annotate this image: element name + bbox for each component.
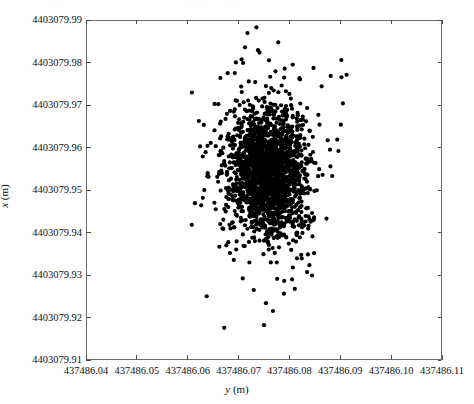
x-axis-tick-top [187, 20, 188, 24]
x-axis-tick-top [340, 20, 341, 24]
x-axis-tick-label: 437486.06 [165, 365, 210, 377]
y-axis-tick [86, 147, 91, 148]
y-axis-tick-right [438, 317, 441, 318]
y-axis-tick-label: 4403079.96 [32, 142, 82, 154]
y-axis-unit: (m) [0, 184, 10, 200]
x-axis-title: y (m) [0, 383, 474, 395]
x-axis-tick-top [289, 20, 290, 24]
y-axis-tick [86, 317, 91, 318]
y-axis-tick-right [438, 232, 441, 233]
y-axis-tick-label: 4403079.94 [32, 227, 82, 239]
y-axis-tick [86, 232, 91, 233]
x-axis-tick-label: 437486.08 [267, 365, 312, 377]
y-axis-tick-label: 4403079.91 [32, 354, 82, 366]
y-axis-tick [86, 190, 91, 191]
x-axis-tick [136, 355, 137, 360]
x-axis-tick-top [238, 20, 239, 24]
x-axis-tick-label: 437486.07 [216, 365, 261, 377]
y-axis-tick-label: 4403079.92 [32, 312, 82, 324]
x-axis-tick [442, 355, 443, 360]
y-axis-symbol: x [0, 203, 10, 208]
y-axis-tick-label: 4403079.95 [32, 184, 82, 196]
x-axis-tick-label: 437486.04 [64, 365, 109, 377]
y-axis-tick-label: 4403079.97 [32, 99, 82, 111]
y-axis-tick-label: 4403079.99 [32, 14, 82, 26]
x-axis-tick-label: 437486.05 [115, 365, 160, 377]
y-axis-tick-right [438, 147, 441, 148]
y-axis-tick-right [438, 275, 441, 276]
x-axis-tick-top [86, 20, 87, 24]
x-axis-tick [238, 355, 239, 360]
y-axis-tick [86, 105, 91, 106]
x-axis-tick-top [136, 20, 137, 24]
plot-area [86, 20, 442, 360]
x-axis-tick [289, 355, 290, 360]
y-axis-tick [86, 62, 91, 63]
y-axis-tick [86, 360, 91, 361]
y-axis-title: x (m) [0, 184, 10, 208]
x-axis-tick [340, 355, 341, 360]
x-axis-tick [187, 355, 188, 360]
x-axis-tick-label: 437486.09 [318, 365, 363, 377]
x-axis-tick-top [442, 20, 443, 24]
x-axis-tick [391, 355, 392, 360]
x-axis-tick-label: 437486.10 [369, 365, 414, 377]
scatter-points-layer [87, 21, 441, 359]
y-axis-tick-right [438, 105, 441, 106]
x-axis-tick-top [391, 20, 392, 24]
y-axis-tick-right [438, 190, 441, 191]
y-axis-tick-right [438, 360, 441, 361]
y-axis-tick-right [438, 62, 441, 63]
x-axis-unit: (m) [233, 383, 249, 395]
y-axis-tick-right [438, 20, 441, 21]
y-axis-tick [86, 275, 91, 276]
scatter-plot-figure: 437486.04437486.05437486.06437486.074374… [0, 0, 474, 404]
y-axis-tick-label: 4403079.98 [32, 57, 82, 69]
y-axis-tick-label: 4403079.93 [32, 269, 82, 281]
y-axis-tick [86, 20, 91, 21]
x-axis-tick-label: 437486.11 [420, 365, 464, 377]
